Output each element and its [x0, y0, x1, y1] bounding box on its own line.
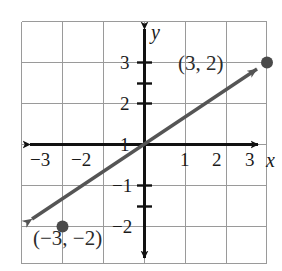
y-axis-name: y	[151, 22, 160, 42]
annotation-point-neg3-neg2: (−3, −2)	[33, 228, 102, 249]
x-tick-label-1: 1	[180, 150, 190, 169]
annotation-point-3-2: (3, 2)	[178, 53, 224, 74]
x-axis-name: x	[266, 150, 275, 170]
y-tick-label-neg1: −1	[112, 176, 132, 195]
coordinate-plane-figure: 3 2 1 −1 −2 −3 −2 1 2 3 y x (3, 2) (−3, …	[0, 0, 282, 271]
x-tick-label-neg2: −2	[71, 150, 91, 169]
x-tick-label-3: 3	[245, 150, 255, 169]
y-tick-label-1: 1	[120, 135, 130, 154]
x-tick-label-neg3: −3	[30, 150, 50, 169]
data-point-3-2	[261, 57, 273, 69]
y-tick-label-2: 2	[120, 94, 130, 113]
x-tick-label-2: 2	[212, 150, 222, 169]
y-tick-label-neg2: −2	[112, 217, 132, 236]
y-tick-label-3: 3	[120, 53, 130, 72]
